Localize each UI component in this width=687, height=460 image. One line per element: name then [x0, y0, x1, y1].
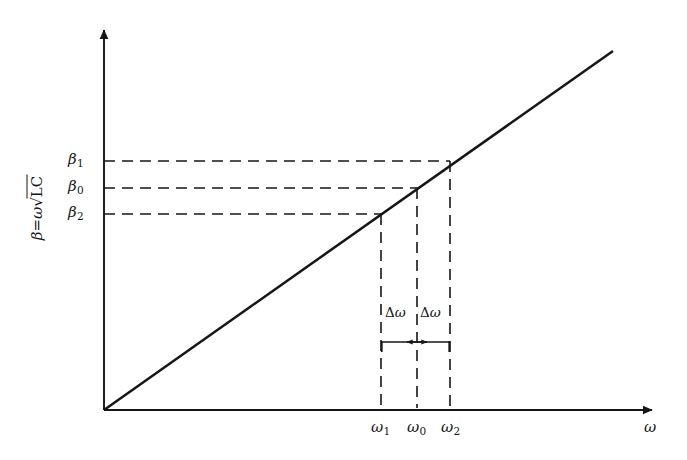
y-tick-beta1-subscript: 1 — [77, 157, 84, 169]
y-tick-label-beta0: β0 — [68, 177, 84, 196]
y-axis-label: β=ω√LC — [27, 138, 46, 278]
y-tick-label-beta1: β1 — [68, 150, 84, 169]
x-tick-label-omega2: ω2 — [441, 418, 460, 437]
x-tick-omega2-subscript: 2 — [454, 425, 461, 437]
y-tick-beta2-subscript: 2 — [77, 210, 84, 222]
x-tick-omega1-subscript: 1 — [384, 425, 391, 437]
dispersion-diagram-figure: β1 β0 β2 ω1 ω0 ω2 Δω Δω ω β=ω√LC — [0, 0, 687, 460]
delta-symbol-right: Δ — [420, 304, 430, 320]
y-tick-beta1-symbol: β — [68, 150, 77, 168]
delta-symbol-left: Δ — [385, 304, 395, 320]
y-axis-label-beta: β — [28, 232, 46, 241]
annotation-delta-omega-left: Δω — [385, 304, 406, 320]
y-axis-label-omega: ω — [28, 207, 46, 219]
y-tick-beta0-subscript: 0 — [77, 184, 84, 196]
x-tick-omega0-subscript: 0 — [420, 425, 427, 437]
x-tick-omega1-symbol: ω — [371, 418, 383, 436]
x-tick-label-omega0: ω0 — [407, 418, 426, 437]
delta-var-left: ω — [395, 304, 406, 320]
annotation-delta-omega-right: Δω — [420, 304, 441, 320]
x-tick-omega2-symbol: ω — [441, 418, 453, 436]
x-tick-omega0-symbol: ω — [407, 418, 419, 436]
x-axis-label: ω — [644, 418, 656, 436]
y-tick-beta2-symbol: β — [68, 203, 77, 221]
delta-var-right: ω — [430, 304, 441, 320]
radical-icon: √ — [28, 197, 46, 207]
plot-canvas — [0, 0, 687, 460]
y-tick-label-beta2: β2 — [68, 203, 84, 222]
y-axis-label-equals: = — [28, 219, 46, 232]
dispersion-curve — [104, 51, 613, 410]
y-axis-label-lc: LC — [27, 175, 46, 198]
x-tick-label-omega1: ω1 — [371, 418, 390, 437]
y-tick-beta0-symbol: β — [68, 177, 77, 195]
